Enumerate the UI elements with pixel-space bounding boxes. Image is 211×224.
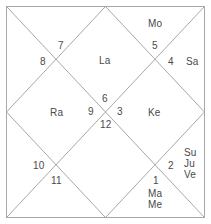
planet-sun-label: Su	[184, 147, 197, 158]
house-number-8: 8	[40, 56, 46, 67]
planet-ketu-label: Ke	[148, 107, 161, 118]
vedic-birth-chart: 7 8 5 4 6 9 3 12 10 11 2 1 La Mo Sa Ra K…	[0, 0, 211, 224]
planet-mars-label: Ma	[148, 188, 162, 199]
planet-moon-label: Mo	[148, 18, 162, 29]
house-number-1: 1	[153, 175, 159, 186]
planet-venus-label: Ve	[184, 169, 196, 180]
house-number-12: 12	[100, 119, 112, 130]
planet-saturn-label: Sa	[186, 56, 199, 67]
planet-group-house-1: Ma Me	[148, 188, 162, 210]
planet-lagna-label: La	[99, 55, 111, 66]
house-number-10: 10	[33, 160, 45, 171]
house-number-11: 11	[51, 175, 62, 186]
planet-mercury-label: Me	[148, 199, 162, 210]
house-number-9: 9	[88, 106, 94, 117]
chart-grid-lines	[0, 0, 211, 224]
house-number-2: 2	[168, 160, 174, 171]
planet-group-house-2: Su Ju Ve	[184, 147, 197, 180]
house-number-3: 3	[117, 106, 123, 117]
planet-jupiter-label: Ju	[184, 158, 195, 169]
house-number-4: 4	[168, 56, 174, 67]
house-number-7: 7	[58, 40, 64, 51]
house-number-5: 5	[152, 40, 158, 51]
house-number-6: 6	[102, 93, 108, 104]
planet-rahu-label: Ra	[50, 107, 63, 118]
